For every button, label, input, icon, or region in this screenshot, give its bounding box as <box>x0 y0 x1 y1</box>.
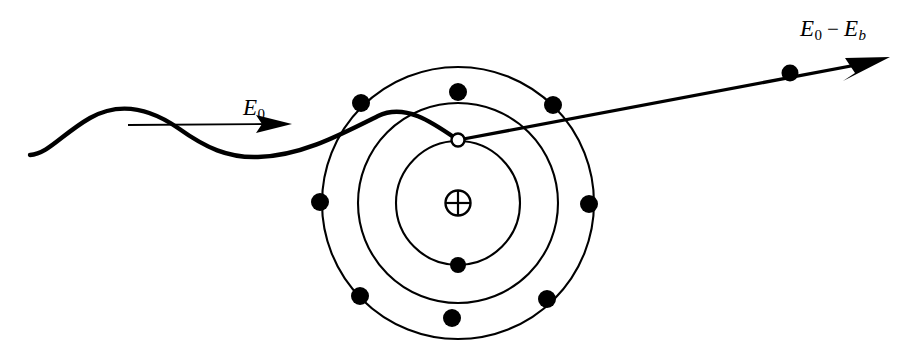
electron-vacancy-icon <box>452 134 465 147</box>
electron-outer-top-right <box>544 96 562 114</box>
label-incident-energy-subscript: 0 <box>257 106 265 122</box>
electron-middle-left <box>311 193 329 211</box>
incident-direction-arrow <box>128 115 292 133</box>
electron-outer-top-left <box>352 94 370 112</box>
label-outgoing-energy-subscript-1: 0 <box>814 27 822 43</box>
electron-middle-top <box>449 83 467 101</box>
label-outgoing-energy-symbol-1: E <box>800 16 814 41</box>
electron-middle-right <box>580 195 598 213</box>
electron-middle-bottom <box>443 309 461 327</box>
label-incident-energy-symbol: E <box>243 95 257 120</box>
ejected-electron-ray <box>458 57 890 140</box>
nucleus-icon <box>446 191 471 216</box>
electron-inner-bottom <box>450 257 466 273</box>
diagram-canvas <box>0 0 920 363</box>
label-outgoing-energy: E0−Eb <box>800 17 866 43</box>
label-incident-energy: E0 <box>243 96 265 122</box>
electron-on-ejected-path <box>782 65 799 82</box>
electron-middle-bottom-left <box>351 287 369 305</box>
label-outgoing-energy-operator: − <box>822 17 844 41</box>
photoelectric-diagram: E0 E0−Eb <box>0 0 920 363</box>
ejected-electron-path <box>458 62 872 140</box>
electron-middle-bottom-right <box>538 290 556 308</box>
ejected-electron-arrowhead <box>843 57 890 81</box>
label-outgoing-energy-subscript-2: b <box>858 27 866 43</box>
label-outgoing-energy-symbol-2: E <box>844 16 858 41</box>
incident-arrow-shaft <box>128 124 272 125</box>
